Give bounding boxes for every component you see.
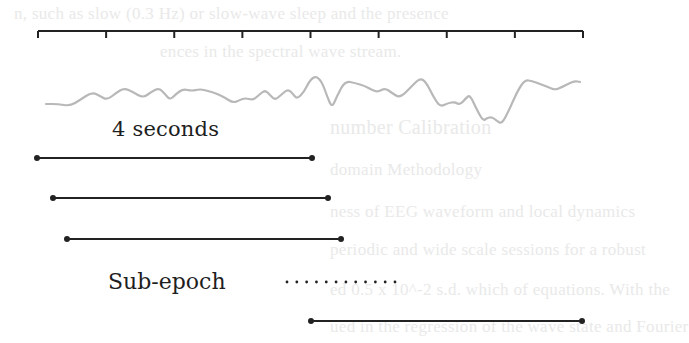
ellipsis-dot <box>384 281 387 284</box>
ellipsis-dot <box>374 281 377 284</box>
epoch-segments <box>34 155 585 324</box>
ellipsis-dot <box>364 281 367 284</box>
segment-start-dot <box>64 236 70 242</box>
ellipsis-dot <box>325 281 328 284</box>
ellipsis-dot <box>286 281 289 284</box>
segment-start-dot <box>50 195 56 201</box>
ellipsis-dot <box>354 281 357 284</box>
time-ruler <box>38 31 583 38</box>
segment-end-dot <box>579 318 585 324</box>
ellipsis-dot <box>305 281 308 284</box>
eeg-signal-trace <box>46 77 580 123</box>
sub-epoch-label: Sub-epoch <box>108 269 226 294</box>
epoch-segment <box>50 195 331 201</box>
signal-path <box>46 77 580 123</box>
continuation-dots <box>286 281 397 284</box>
epoch-segment <box>64 236 344 242</box>
ellipsis-dot <box>315 281 318 284</box>
epoch-segment <box>34 155 315 161</box>
segment-end-dot <box>309 155 315 161</box>
duration-label: 4 seconds <box>112 117 219 141</box>
segment-end-dot <box>338 236 344 242</box>
segment-end-dot <box>325 195 331 201</box>
ellipsis-dot <box>345 281 348 284</box>
ellipsis-dot <box>335 281 338 284</box>
ellipsis-dot <box>295 281 298 284</box>
segment-start-dot <box>34 155 40 161</box>
ellipsis-dot <box>394 281 397 284</box>
epoch-segment <box>308 318 585 324</box>
segment-start-dot <box>308 318 314 324</box>
